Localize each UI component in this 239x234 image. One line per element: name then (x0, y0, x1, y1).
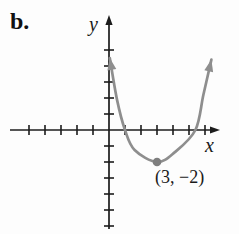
part-label: b. (10, 8, 29, 35)
y-axis-arrow-icon (105, 15, 112, 25)
parabola-curve (110, 58, 212, 162)
x-axis-label: x (205, 135, 214, 155)
x-axis-arrow-icon (210, 126, 220, 133)
vertex-point (153, 158, 162, 167)
figure-panel: b. y x (3, −2) (0, 0, 239, 234)
vertex-coordinates-label: (3, −2) (155, 167, 204, 188)
parabola-graph (0, 0, 239, 234)
y-axis-label: y (89, 14, 98, 34)
